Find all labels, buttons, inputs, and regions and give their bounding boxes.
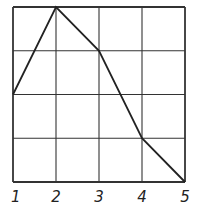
x-tick-label: 4 bbox=[137, 188, 147, 206]
x-tick-label: 5 bbox=[180, 188, 190, 206]
x-tick-label: 3 bbox=[94, 188, 104, 206]
x-tick-label: 2 bbox=[51, 188, 61, 206]
x-tick-label: 1 bbox=[11, 188, 21, 206]
x-axis-tick-labels: 12345 bbox=[11, 188, 190, 206]
line-chart: 12345 bbox=[0, 0, 197, 214]
